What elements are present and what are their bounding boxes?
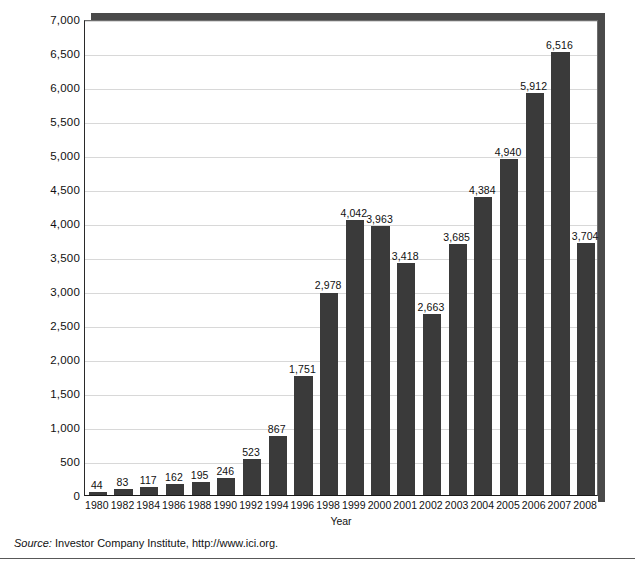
- y-tick-label: 6,000: [32, 82, 80, 94]
- y-axis-tick-labels: 05001,0001,5002,0002,5003,0003,5004,0004…: [30, 0, 80, 568]
- x-tick-label: 1986: [162, 499, 186, 511]
- y-tick-label: 1,500: [32, 388, 80, 400]
- bottom-rule: [0, 558, 635, 559]
- x-tick-label: 1994: [265, 499, 289, 511]
- y-tick-label: 0: [32, 490, 80, 502]
- x-tick-label: 2000: [368, 499, 392, 511]
- bar-value-label: 44: [91, 479, 103, 491]
- bar-value-label: 2,663: [418, 301, 445, 313]
- x-tick-label: 2005: [496, 499, 520, 511]
- bar: [371, 226, 389, 495]
- y-tick-label: 3,000: [32, 286, 80, 298]
- bar: [526, 93, 544, 495]
- bar-value-label: 2,978: [315, 279, 342, 291]
- x-tick-label: 2006: [522, 499, 546, 511]
- x-tick-label: 1992: [239, 499, 263, 511]
- y-tick-label: 5,500: [32, 116, 80, 128]
- x-tick-label: 2001: [393, 499, 417, 511]
- y-tick-label: 2,000: [32, 354, 80, 366]
- bar-value-label: 3,704: [572, 230, 599, 242]
- bar: [346, 220, 364, 495]
- bar: [551, 52, 569, 495]
- x-tick-label: 1984: [136, 499, 160, 511]
- bar: [500, 159, 518, 495]
- x-tick-label: 2004: [470, 499, 494, 511]
- bar: [217, 478, 235, 495]
- x-tick-label: 2007: [548, 499, 572, 511]
- bar: [320, 293, 338, 496]
- bars-layer: [85, 21, 597, 495]
- x-tick-label: 2002: [419, 499, 443, 511]
- bar: [243, 459, 261, 495]
- y-tick-label: 6,500: [32, 48, 80, 60]
- x-tick-label: 1990: [213, 499, 237, 511]
- bar: [577, 243, 595, 495]
- x-tick-label: 1980: [85, 499, 109, 511]
- bar-value-label: 3,963: [366, 213, 393, 225]
- x-tick-label: 1998: [316, 499, 340, 511]
- plot-shadow-top: [91, 13, 605, 20]
- x-tick-label: 2003: [445, 499, 469, 511]
- x-tick-label: 1999: [342, 499, 366, 511]
- source-label: Source:: [14, 537, 52, 549]
- y-tick-label: 4,500: [32, 184, 80, 196]
- bar: [397, 263, 415, 495]
- figure-container: Value of stocks owned through equity mut…: [0, 0, 635, 568]
- bar: [192, 482, 210, 495]
- bar-value-label: 4,042: [340, 207, 367, 219]
- y-tick-label: 2,500: [32, 320, 80, 332]
- x-axis-title: Year: [84, 515, 598, 527]
- y-tick-label: 500: [32, 456, 80, 468]
- bar-value-label: 3,418: [392, 250, 419, 262]
- y-tick-label: 5,000: [32, 150, 80, 162]
- bar-value-label: 523: [242, 446, 260, 458]
- y-tick-label: 3,500: [32, 252, 80, 264]
- x-tick-label: 2008: [573, 499, 597, 511]
- bar-value-label: 5,912: [520, 80, 547, 92]
- bar-value-label: 1,751: [289, 363, 316, 375]
- bar-value-label: 4,384: [469, 184, 496, 196]
- bar-value-label: 867: [268, 423, 286, 435]
- bar: [140, 487, 158, 495]
- bar-value-label: 6,516: [546, 39, 573, 51]
- bar: [449, 244, 467, 495]
- x-tick-label: 1996: [291, 499, 315, 511]
- y-tick-label: 1,000: [32, 422, 80, 434]
- source-note: Source: Investor Company Institute, http…: [14, 537, 278, 549]
- bar: [114, 489, 132, 495]
- y-tick-label: 7,000: [32, 14, 80, 26]
- bar-value-label: 162: [165, 471, 183, 483]
- bar: [269, 436, 287, 495]
- bar-value-label: 246: [216, 465, 234, 477]
- x-tick-label: 1982: [111, 499, 135, 511]
- source-text: Investor Company Institute, http://www.i…: [52, 537, 278, 549]
- bar: [166, 484, 184, 495]
- bar: [89, 492, 107, 495]
- y-tick-label: 4,000: [32, 218, 80, 230]
- bar: [423, 314, 441, 495]
- bar-value-label: 117: [140, 474, 157, 486]
- bar-value-label: 4,940: [495, 146, 522, 158]
- bar-value-label: 3,685: [443, 231, 470, 243]
- bar-value-label: 195: [191, 469, 209, 481]
- x-tick-label: 1988: [188, 499, 212, 511]
- bar: [294, 376, 312, 495]
- plot-shadow-right: [598, 13, 605, 502]
- bar-value-label: 83: [117, 476, 129, 488]
- bar: [474, 197, 492, 495]
